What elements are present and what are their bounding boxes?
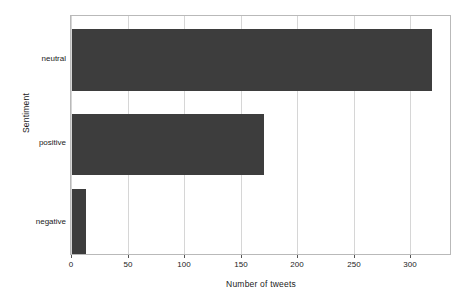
x-tick-mark-250 <box>354 255 355 258</box>
y-tick-label-neutral: neutral <box>0 54 66 63</box>
x-tick-mark-0 <box>71 255 72 258</box>
x-tick-mark-150 <box>241 255 242 258</box>
x-tick-label-50: 50 <box>108 260 148 269</box>
x-tick-label-300: 300 <box>390 260 430 269</box>
x-tick-label-100: 100 <box>164 260 204 269</box>
bar-positive <box>72 114 264 175</box>
y-tick-label-negative: negative <box>0 217 66 226</box>
x-tick-label-250: 250 <box>334 260 374 269</box>
bar-negative <box>72 189 86 254</box>
x-tick-mark-100 <box>184 255 185 258</box>
x-tick-label-0: 0 <box>51 260 91 269</box>
x-tick-label-200: 200 <box>277 260 317 269</box>
x-tick-label-150: 150 <box>221 260 261 269</box>
y-axis-title: Sentiment <box>21 53 31 173</box>
x-axis-title: Number of tweets <box>70 279 452 289</box>
bar-neutral <box>72 29 432 91</box>
bar-chart-figure: Sentiment Number of tweets neutral posit… <box>0 0 470 301</box>
y-tick-label-positive: positive <box>0 138 66 147</box>
x-tick-mark-50 <box>128 255 129 258</box>
x-tick-mark-200 <box>297 255 298 258</box>
plot-area <box>70 15 451 255</box>
x-tick-mark-300 <box>410 255 411 258</box>
